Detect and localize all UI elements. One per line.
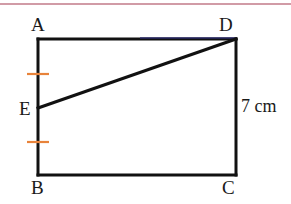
vertex-label-d: D [219,15,233,34]
vertex-label-c: C [222,178,235,197]
side-length-label-dc: 7 cm [241,97,277,115]
vertex-label-b: B [31,178,44,197]
figure-canvas: A D E B C 7 cm [0,0,291,204]
vertex-label-e: E [19,99,31,118]
diagonal-segment-ED [38,39,236,108]
vertex-label-a: A [31,15,45,34]
